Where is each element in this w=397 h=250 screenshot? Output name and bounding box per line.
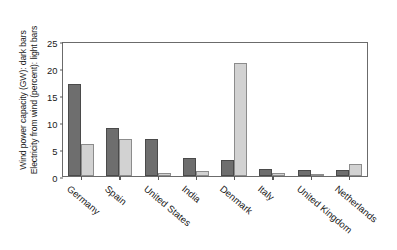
y-axis-tick-label: 25 [47,38,57,49]
x-axis-label-spain[interactable]: Spain [103,183,129,207]
bar-group [106,43,132,176]
bar-electricity-percent[interactable] [196,171,209,176]
chart-figure: Wind power capacity (GW): dark bars Elec… [0,0,397,250]
bar-group [221,43,247,176]
bar-electricity-percent[interactable] [311,174,324,176]
y-axis-tick-label: 0 [52,173,57,184]
y-axis-tick-label: 15 [47,92,57,103]
bar-group [259,43,285,176]
bar-electricity-percent[interactable] [119,139,132,176]
y-axis-tick-mark [60,69,64,70]
bar-capacity[interactable] [298,170,311,176]
bar-capacity[interactable] [259,169,272,176]
x-axis-tick-mark [158,176,159,180]
y-axis-tick-mark [60,96,64,97]
y-axis-tick-label: 5 [52,146,57,157]
y-axis-tick: 25 [47,38,63,49]
y-axis-tick-mark [60,123,64,124]
bar-capacity[interactable] [68,84,81,176]
bar-capacity[interactable] [221,160,234,176]
bar-capacity[interactable] [336,170,349,176]
bar-capacity[interactable] [106,128,119,176]
x-axis-tick-mark [196,176,197,180]
x-axis-tick-mark [234,176,235,180]
bars-layer [63,43,367,176]
y-axis-label-line-2: Electricity from wind (percent): light b… [30,26,39,175]
x-axis-tick-mark [311,176,312,180]
x-axis-tick-mark [272,176,273,180]
bar-group [145,43,171,176]
y-axis-tick: 10 [47,119,63,130]
bar-electricity-percent[interactable] [158,173,171,176]
y-axis-label: Wind power capacity (GW): dark bars Elec… [12,0,46,200]
bar-electricity-percent[interactable] [272,173,285,176]
bar-group [183,43,209,176]
y-axis-tick: 20 [47,65,63,76]
y-axis-tick-label: 20 [47,65,57,76]
x-axis-label-denmark[interactable]: Denmark [218,183,255,216]
x-axis-label-germany[interactable]: Germany [65,183,102,217]
x-axis-label-italy[interactable]: Italy [256,183,277,203]
y-axis-tick-mark [60,150,64,151]
y-axis-label-line-1: Wind power capacity (GW): dark bars [19,30,28,169]
bar-electricity-percent[interactable] [349,164,362,176]
bar-electricity-percent[interactable] [234,63,247,176]
y-axis-tick-mark [60,42,64,43]
x-axis-label-india[interactable]: India [180,183,203,205]
bar-group [68,43,94,176]
y-axis-tick-mark [60,177,64,178]
bar-group [298,43,324,176]
y-axis-tick-label: 10 [47,119,57,130]
bar-electricity-percent[interactable] [81,144,94,176]
x-axis-tick-mark [119,176,120,180]
x-axis-tick-mark [81,176,82,180]
plot-area: 0510152025 [62,42,368,177]
bar-capacity[interactable] [145,139,158,176]
x-axis-tick-mark [349,176,350,180]
y-axis-tick: 0 [52,173,63,184]
bar-group [336,43,362,176]
y-axis-tick: 15 [47,92,63,103]
y-axis-tick: 5 [52,146,63,157]
bar-capacity[interactable] [183,158,196,176]
